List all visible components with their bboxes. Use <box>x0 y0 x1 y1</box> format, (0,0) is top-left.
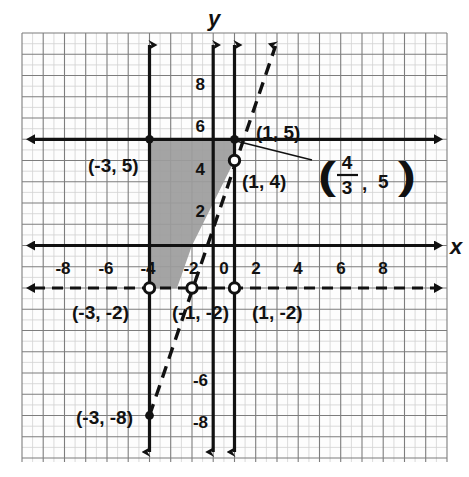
point-neg1-neg2-open <box>187 283 197 293</box>
x-tick-4: 4 <box>293 259 303 278</box>
y-axis-label: y <box>207 6 222 31</box>
y-tick--6: -6 <box>193 371 208 390</box>
point-1-5-closed <box>230 135 239 144</box>
coordinate-plane-svg: -8 -6 -4 -2 0 2 4 6 8 8 6 4 2 -6 -8 y x … <box>0 0 469 477</box>
label-1-neg2: (1, -2) <box>252 302 303 323</box>
graph-figure: -8 -6 -4 -2 0 2 4 6 8 8 6 4 2 -6 -8 y x … <box>0 0 469 477</box>
y-tick-2: 2 <box>196 202 205 221</box>
point-neg3-neg8-closed <box>145 411 154 420</box>
y-tick-4: 4 <box>196 160 206 179</box>
x-tick--8: -8 <box>55 259 70 278</box>
y-tick-6: 6 <box>196 117 205 136</box>
callout-second-coordinate: 5 <box>378 171 389 192</box>
x-axis-label: x <box>449 234 463 259</box>
label-neg3-5: (-3, 5) <box>88 155 139 176</box>
callout-comma: , <box>362 173 367 194</box>
x-tick-0: 0 <box>219 259 228 278</box>
x-tick-labels: -8 -6 -4 -2 0 2 4 6 8 <box>55 259 387 278</box>
label-neg3-neg8: (-3, -8) <box>76 407 133 428</box>
label-1-4: (1, 4) <box>242 171 286 192</box>
label-neg3-neg2: (-3, -2) <box>72 302 129 323</box>
point-1-4-open <box>229 155 239 165</box>
label-neg1-neg2: (-1, -2) <box>172 302 229 323</box>
y-tick--8: -8 <box>193 413 208 432</box>
label-1-5: (1, 5) <box>256 122 300 143</box>
x-tick-8: 8 <box>378 259 387 278</box>
callout-close-paren: ) <box>398 153 416 197</box>
x-tick-2: 2 <box>251 259 260 278</box>
point-neg3-5-closed <box>145 135 153 143</box>
x-tick--6: -6 <box>98 259 113 278</box>
y-tick-8: 8 <box>196 75 205 94</box>
point-1-neg2-open <box>229 283 239 293</box>
callout-open-paren: ( <box>318 153 336 197</box>
x-tick--4: -4 <box>140 259 156 278</box>
callout-denominator: 3 <box>342 177 353 198</box>
point-neg3-neg2-open <box>144 283 154 293</box>
x-tick--2: -2 <box>183 259 198 278</box>
x-tick-6: 6 <box>336 259 345 278</box>
callout-numerator: 4 <box>342 152 353 173</box>
